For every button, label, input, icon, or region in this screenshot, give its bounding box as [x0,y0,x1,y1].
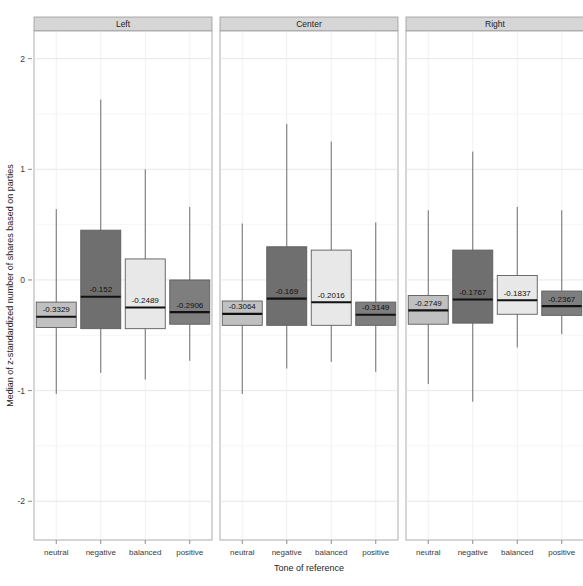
y-axis-tick-label: 2 [20,54,25,64]
x-axis-tick-label-neutral: neutral [416,548,441,557]
median-value-label: -0.2367 [548,295,576,304]
x-axis-tick-label-balanced: balanced [501,548,533,557]
median-value-label: -0.1767 [459,288,487,297]
median-value-label: -0.3064 [229,302,257,311]
y-axis-tick-label: 1 [20,164,25,174]
x-axis-tick-label-positive: positive [176,548,204,557]
median-value-label: -0.169 [275,287,298,296]
x-axis-tick-label-positive: positive [362,548,390,557]
panel-plot-area-right [406,31,583,540]
panel-strip-label: Center [296,19,322,29]
x-axis-tick-label-neutral: neutral [44,548,69,557]
boxplot-chart: 210-1-2Median of z-standardized number o… [0,0,583,586]
x-axis-tick-label-negative: negative [86,548,117,557]
box-body[interactable] [267,247,307,326]
median-value-label: -0.3329 [43,305,71,314]
x-axis-tick-label-balanced: balanced [129,548,161,557]
median-value-label: -0.2906 [176,301,204,310]
median-value-label: -0.1837 [504,289,532,298]
x-axis-tick-label-balanced: balanced [315,548,347,557]
y-axis-tick-label: -1 [17,386,25,396]
median-value-label: -0.152 [89,285,112,294]
y-axis-title: Median of z-standardized number of share… [5,164,15,407]
box-body[interactable] [125,259,165,329]
y-axis-tick-label: 0 [20,275,25,285]
median-value-label: -0.2489 [132,296,160,305]
x-axis-tick-label-positive: positive [548,548,576,557]
median-value-label: -0.3149 [362,303,390,312]
panel-plot-area-center [220,31,398,540]
y-axis-tick-label: -2 [17,496,25,506]
median-value-label: -0.2016 [318,291,346,300]
x-axis-tick-label-negative: negative [458,548,489,557]
median-value-label: -0.2749 [415,299,443,308]
x-axis-title: Tone of reference [274,563,344,573]
box-body[interactable] [453,250,493,323]
panel-strip-label: Right [485,19,505,29]
panel-strip-label: Left [116,19,131,29]
box-body[interactable] [81,230,121,328]
x-axis-tick-label-neutral: neutral [230,548,255,557]
x-axis-tick-label-negative: negative [272,548,303,557]
chart-container: 210-1-2Median of z-standardized number o… [0,0,583,586]
box-body[interactable] [311,250,351,325]
